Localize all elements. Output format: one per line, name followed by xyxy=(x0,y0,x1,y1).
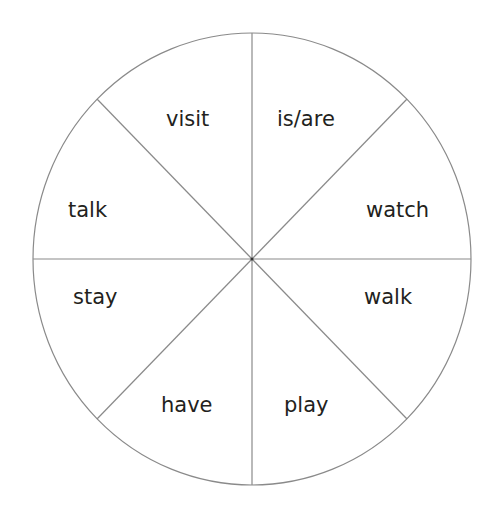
segment-label-is-are: is/are xyxy=(277,107,335,131)
center-point xyxy=(251,258,254,261)
segment-label-have: have xyxy=(161,393,213,417)
segment-label-walk: walk xyxy=(364,285,413,309)
verb-wheel: visit is/are watch walk play have stay t… xyxy=(0,0,491,507)
segment-label-talk: talk xyxy=(68,198,108,222)
segment-label-watch: watch xyxy=(366,198,429,222)
segment-label-stay: stay xyxy=(73,285,117,309)
segment-label-play: play xyxy=(284,393,328,417)
segment-label-visit: visit xyxy=(166,107,209,131)
